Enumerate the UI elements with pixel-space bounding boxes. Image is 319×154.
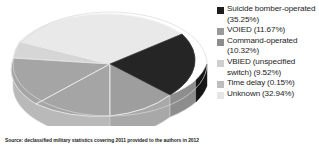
legend-item-label: Suicide bomber-operated (35.25%): [227, 4, 319, 25]
legend-item-command-operated[interactable]: Command-operated (10.32%): [216, 36, 319, 57]
legend-item-label: Unknown (32.94%): [227, 89, 319, 100]
legend-item-suicide-bomber[interactable]: Suicide bomber-operated (35.25%): [216, 4, 319, 25]
legend-item-voied[interactable]: VOIED (11.67%): [216, 25, 319, 36]
legend-item-vbied[interactable]: VBIED (unspecified switch) (9.52%): [216, 57, 319, 78]
legend-item-unknown[interactable]: Unknown (32.94%): [216, 89, 319, 100]
pie-chart-svg: [10, 8, 210, 126]
legend-item-time-delay[interactable]: Time delay (0.15%): [216, 78, 319, 89]
legend-swatch-icon: [217, 81, 224, 88]
pie-chart-figure: Suicide bomber-operated (35.25%) VOIED (…: [0, 0, 319, 154]
chart-legend: Suicide bomber-operated (35.25%) VOIED (…: [216, 4, 319, 132]
legend-swatch-icon: [217, 7, 224, 14]
legend-item-label: VBIED (unspecified switch) (9.52%): [227, 57, 319, 78]
source-note: Source: declassified military statistics…: [5, 137, 230, 144]
legend-swatch-icon: [217, 92, 224, 99]
legend-item-label: Time delay (0.15%): [227, 78, 319, 89]
legend-swatch-icon: [217, 28, 224, 35]
legend-swatch-icon: [217, 39, 224, 46]
pie-3d-body: [10, 8, 210, 126]
wall-suicide-bomber: [196, 64, 207, 102]
legend-item-label: Command-operated (10.32%): [227, 36, 319, 57]
legend-swatch-icon: [217, 60, 224, 67]
legend-item-label: VOIED (11.67%): [227, 25, 319, 36]
pie-chart-region: [0, 0, 215, 132]
